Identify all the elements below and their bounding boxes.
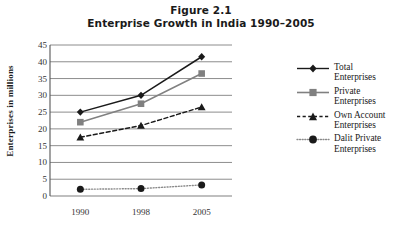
legend-item-dalit-private-enterprises: Dalit Private Enterprises [296, 133, 402, 154]
chart-legend: Total Enterprises Private Enterprises Ow… [296, 62, 402, 157]
legend-key-total-enterprises [296, 62, 330, 75]
legend-item-private-enterprises: Private Enterprises [296, 86, 402, 107]
legend-label-dalit-private-enterprises: Dalit Private Enterprises [334, 133, 381, 154]
legend-key-own-account-enterprises [296, 110, 330, 123]
x-tick-1998: 1998 [132, 207, 150, 217]
legend-label-own-account-enterprises: Own Account Enterprises [334, 110, 385, 131]
legend-key-dalit-private-enterprises [296, 133, 330, 146]
figure-container: Figure 2.1 Enterprise Growth in India 19… [0, 0, 402, 236]
legend-label-private-enterprises: Private Enterprises [334, 86, 376, 107]
legend-label-total-enterprises: Total Enterprises [334, 62, 376, 83]
legend-item-total-enterprises: Total Enterprises [296, 62, 402, 83]
legend-item-own-account-enterprises: Own Account Enterprises [296, 110, 402, 131]
x-tick-2005: 2005 [193, 207, 211, 217]
legend-key-private-enterprises [296, 86, 330, 99]
x-tick-1990: 1990 [71, 207, 89, 217]
